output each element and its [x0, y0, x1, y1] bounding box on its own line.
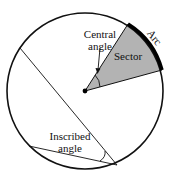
central-angle-label: Central angle	[80, 29, 120, 52]
inscribed-angle-label: Inscribed angle	[48, 131, 92, 154]
inscribed-angle-mark	[100, 151, 105, 161]
inscribed-angle-label-line2: angle	[48, 143, 92, 154]
inscribed-angle-label-line1: Inscribed	[48, 131, 92, 142]
sector-label: Sector	[114, 51, 142, 62]
central-angle-label-line1: Central	[80, 29, 120, 40]
center-point	[83, 89, 88, 94]
